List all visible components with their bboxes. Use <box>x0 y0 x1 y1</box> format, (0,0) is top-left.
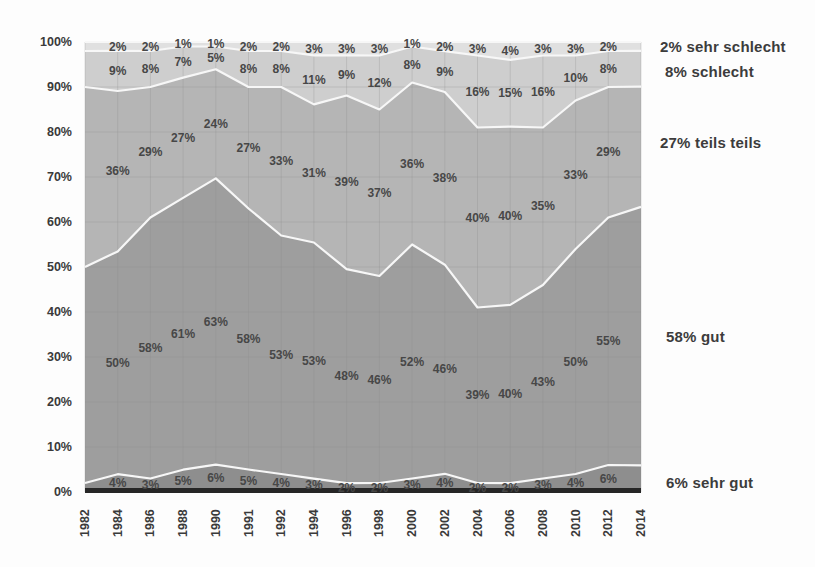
x-axis-tick-label: 1986 <box>143 509 157 537</box>
y-axis-tick-label: 80% <box>47 125 72 139</box>
x-axis-tick-label: 1991 <box>242 509 256 537</box>
value-label-sehr-schlecht: 1% <box>207 37 225 51</box>
value-label-gut: 40% <box>498 387 522 401</box>
baseline-strip <box>85 488 641 493</box>
y-axis-tick-label: 30% <box>47 350 72 364</box>
y-axis-tick-label: 10% <box>47 440 72 454</box>
value-label-schlecht: 16% <box>531 85 555 99</box>
value-label-teils-teils: 36% <box>106 164 130 178</box>
value-label-gut: 50% <box>564 355 588 369</box>
value-label-schlecht: 9% <box>109 64 127 78</box>
value-label-schlecht: 9% <box>436 65 454 79</box>
value-label-sehr-schlecht: 1% <box>403 37 421 51</box>
value-label-teils-teils: 24% <box>204 117 228 131</box>
value-label-sehr-gut: 4% <box>109 476 127 490</box>
value-label-sehr-gut: 3% <box>142 478 160 492</box>
value-label-gut: 53% <box>269 348 293 362</box>
scanned-survey-chart-page: 4%3%5%6%5%4%3%2%2%3%4%2%2%3%4%6%50%58%61… <box>0 0 815 567</box>
x-axis-tick-label: 1996 <box>340 509 354 537</box>
value-label-sehr-schlecht: 2% <box>240 40 258 54</box>
value-label-schlecht: 8% <box>142 62 160 76</box>
value-label-sehr-gut: 2% <box>338 481 356 495</box>
value-label-sehr-schlecht: 3% <box>469 42 487 56</box>
value-label-schlecht: 16% <box>465 85 489 99</box>
value-label-schlecht: 11% <box>302 73 326 87</box>
value-label-sehr-schlecht: 2% <box>109 40 127 54</box>
value-label-teils-teils: 38% <box>433 171 457 185</box>
x-axis-tick-label: 1982 <box>78 509 92 537</box>
value-label-teils-teils: 31% <box>302 166 326 180</box>
x-axis-tick-label: 2000 <box>405 509 419 537</box>
y-axis-tick-label: 100% <box>40 35 72 49</box>
value-label-sehr-schlecht: 1% <box>174 37 192 51</box>
value-label-gut: 48% <box>335 369 359 383</box>
value-label-sehr-gut: 4% <box>273 476 291 490</box>
x-axis-tick-label: 1990 <box>209 509 223 537</box>
value-label-sehr-gut: 6% <box>600 472 618 486</box>
x-axis-tick-label: 2014 <box>634 509 648 537</box>
x-axis-tick-label: 1992 <box>274 509 288 537</box>
value-label-schlecht: 12% <box>367 76 391 90</box>
value-label-schlecht: 8% <box>600 62 618 76</box>
value-label-sehr-gut: 6% <box>207 471 225 485</box>
value-label-gut: 58% <box>138 341 162 355</box>
x-axis-tick-label: 2010 <box>569 509 583 537</box>
value-label-gut: 39% <box>465 388 489 402</box>
value-label-gut: 46% <box>367 373 391 387</box>
value-label-teils-teils: 39% <box>335 175 359 189</box>
value-label-sehr-schlecht: 4% <box>502 44 520 58</box>
value-label-sehr-schlecht: 3% <box>338 42 356 56</box>
value-label-schlecht: 10% <box>564 71 588 85</box>
x-axis-tick-label: 1998 <box>372 509 386 537</box>
value-label-teils-teils: 40% <box>498 209 522 223</box>
value-label-teils-teils: 29% <box>138 145 162 159</box>
x-axis-tick-label: 2004 <box>471 509 485 537</box>
value-label-sehr-gut: 2% <box>469 481 487 495</box>
value-label-teils-teils: 40% <box>465 211 489 225</box>
value-label-schlecht: 8% <box>240 62 258 76</box>
stacked-area-chart: 4%3%5%6%5%4%3%2%2%3%4%2%2%3%4%6%50%58%61… <box>0 0 815 567</box>
value-label-sehr-schlecht: 3% <box>567 42 585 56</box>
value-label-sehr-gut: 5% <box>174 474 192 488</box>
value-label-teils-teils: 33% <box>564 168 588 182</box>
value-label-gut: 58% <box>236 332 260 346</box>
x-axis-tick-label: 2002 <box>438 509 452 537</box>
value-label-sehr-schlecht: 3% <box>305 42 323 56</box>
value-label-schlecht: 8% <box>273 62 291 76</box>
value-label-teils-teils: 29% <box>596 145 620 159</box>
value-label-gut: 50% <box>106 356 130 370</box>
value-label-sehr-gut: 3% <box>534 478 552 492</box>
x-axis-tick-label: 1994 <box>307 509 321 537</box>
value-label-schlecht: 7% <box>174 55 192 69</box>
value-label-teils-teils: 27% <box>236 141 260 155</box>
x-axis-tick-label: 1984 <box>111 509 125 537</box>
value-label-sehr-schlecht: 3% <box>534 42 552 56</box>
value-label-gut: 53% <box>302 354 326 368</box>
x-axis-tick-label: 2012 <box>601 509 615 537</box>
value-label-teils-teils: 35% <box>531 199 555 213</box>
value-label-sehr-gut: 2% <box>502 481 520 495</box>
value-label-schlecht: 15% <box>498 86 522 100</box>
value-label-sehr-gut: 4% <box>436 476 454 490</box>
value-label-sehr-gut: 4% <box>567 476 585 490</box>
value-label-sehr-schlecht: 3% <box>371 42 389 56</box>
y-axis-tick-label: 40% <box>47 305 72 319</box>
value-label-teils-teils: 33% <box>269 154 293 168</box>
y-axis-tick-label: 20% <box>47 395 72 409</box>
value-label-schlecht: 5% <box>207 51 225 65</box>
value-label-schlecht: 9% <box>338 68 356 82</box>
value-label-sehr-gut: 2% <box>371 481 389 495</box>
value-label-sehr-gut: 5% <box>240 474 258 488</box>
value-label-gut: 46% <box>433 362 457 376</box>
value-label-gut: 61% <box>171 327 195 341</box>
value-label-sehr-schlecht: 2% <box>273 40 291 54</box>
value-label-sehr-gut: 3% <box>403 478 421 492</box>
y-axis-tick-label: 0% <box>54 485 72 499</box>
y-axis-tick-label: 50% <box>47 260 72 274</box>
y-axis-tick-label: 70% <box>47 170 72 184</box>
value-label-teils-teils: 37% <box>367 186 391 200</box>
value-label-gut: 63% <box>204 315 228 329</box>
value-label-gut: 55% <box>596 334 620 348</box>
value-label-gut: 52% <box>400 355 424 369</box>
x-axis-tick-label: 2008 <box>536 509 550 537</box>
